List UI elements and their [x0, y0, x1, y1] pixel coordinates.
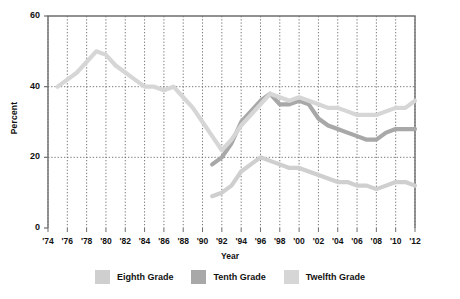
y-axis-tick-label: 20 — [18, 151, 40, 161]
legend-label: Eighth Grade — [117, 272, 174, 282]
chart-legend: Eighth GradeTenth GradeTwelfth Grade — [0, 270, 460, 284]
legend-item[interactable]: Tenth Grade — [191, 270, 265, 284]
legend-label: Twelfth Grade — [306, 272, 365, 282]
series-line — [58, 51, 415, 150]
series-line — [212, 157, 415, 196]
plot-frame — [48, 16, 415, 228]
y-axis-tick-label: 0 — [18, 222, 40, 232]
legend-label: Tenth Grade — [213, 272, 265, 282]
legend-swatch — [191, 270, 206, 284]
y-axis-tick-label: 60 — [18, 10, 40, 20]
x-axis-tick-label: '12 — [403, 236, 427, 246]
line-chart: Percent Year 0204060 '74'76'78'80'82'84'… — [0, 0, 460, 299]
x-axis-title: Year — [0, 251, 460, 261]
legend-swatch — [95, 270, 110, 284]
y-axis-tick-label: 40 — [18, 81, 40, 91]
y-axis-title: Percent — [9, 88, 19, 148]
legend-item[interactable]: Eighth Grade — [95, 270, 174, 284]
legend-item[interactable]: Twelfth Grade — [284, 270, 365, 284]
legend-swatch — [284, 270, 299, 284]
